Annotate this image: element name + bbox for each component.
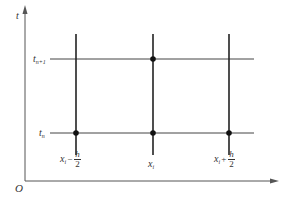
space-lines [76,34,229,155]
x-axis-arrow-icon [270,179,279,184]
label-t-n-plus-1: tn+1 [33,54,46,65]
label-subscript: i [152,164,154,170]
node-x-i-t-n [150,130,156,136]
label-x-i: xi [148,159,154,170]
label-subscript: n [42,133,45,139]
label-subscript: i [218,159,220,165]
origin-label: O [15,183,23,194]
label-fraction: h2 [228,150,235,169]
node-x-i-plus-half-t-n [226,130,232,136]
label-subscript: i [64,159,66,165]
node-x-i-minus-half-t-n [73,130,79,136]
time-level-lines [50,59,254,133]
y-axis-label: t [16,11,19,21]
label-t-n: tn [39,128,45,139]
label-subscript: n+1 [36,59,46,65]
label-x-i-minus-half: xi−h2 [60,150,81,169]
label-x-i-plus-half: xi+h2 [214,150,235,169]
label-operator: + [221,154,226,164]
label-operator: − [67,154,72,164]
label-fraction: h2 [74,150,81,169]
finite-difference-grid-diagram [0,0,293,202]
y-axis-arrow-icon [23,5,28,14]
node-x-i-t-n-plus-1 [150,56,156,62]
